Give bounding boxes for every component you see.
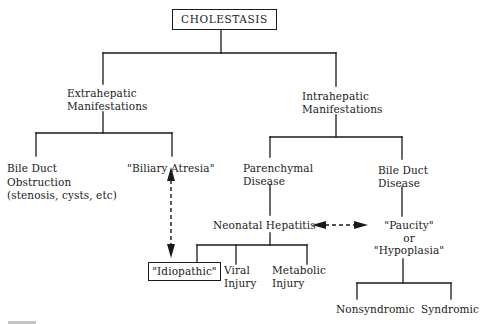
node-nonsyndromic: Nonsyndromic [336,303,415,316]
arrowhead-down-icon [167,244,175,258]
node-idiopathic: "Idiopathic" [148,262,221,281]
node-label-line: Metabolic [272,264,326,277]
arrowhead-right-icon [354,221,368,229]
node-label-line: Bile Duct [378,164,428,177]
node-cholestasis: CHOLESTASIS [172,9,277,30]
node-label-line: Disease [243,175,313,188]
node-label-line: Injury [272,277,326,290]
node-label-line: Obstruction [7,176,117,190]
node-label: "Biliary Atresia" [127,162,215,174]
node-viral-injury: Viral Injury [224,264,256,290]
node-label-line: Manifestations [67,100,148,113]
node-syndromic: Syndromic [421,303,479,316]
node-neonatal-hepatitis: Neonatal Hepatitis [213,219,316,232]
node-paucity-hypoplasia: "Paucity" or "Hypoplasia" [371,219,447,257]
node-label-line: or [371,232,447,245]
node-extrahepatic-manifestations: Extrahepatic Manifestations [67,87,148,113]
node-label-line: "Paucity" [371,219,447,232]
node-label-line: Injury [224,277,256,290]
node-label: Syndromic [421,303,479,315]
node-intrahepatic-manifestations: Intrahepatic Manifestations [302,90,383,116]
node-label-line: Manifestations [302,103,383,116]
node-label-line: Disease [378,177,428,190]
node-label: Neonatal Hepatitis [213,219,316,231]
node-label-line: (stenosis, cysts, etc) [7,189,117,203]
node-label-line: Parenchymal [243,162,313,175]
node-bile-duct-obstruction: Bile Duct Obstruction (stenosis, cysts, … [7,162,117,203]
cholestasis-diagram: CHOLESTASIS Extrahepatic Manifestations … [0,0,482,324]
node-label: "Idiopathic" [152,265,217,277]
node-label-line: Extrahepatic [67,87,148,100]
node-label: Nonsyndromic [336,303,415,315]
node-bile-duct-disease: Bile Duct Disease [378,164,428,190]
node-metabolic-injury: Metabolic Injury [272,264,326,290]
node-label-line: "Hypoplasia" [371,244,447,257]
node-parenchymal-disease: Parenchymal Disease [243,162,313,188]
node-label-line: Viral [224,264,256,277]
node-biliary-atresia: "Biliary Atresia" [127,162,215,175]
node-label-line: Bile Duct [7,162,117,176]
dashed-arrow-atresia-idiopathic [167,167,175,258]
node-label-line: Intrahepatic [302,90,383,103]
dashed-arrow-neonatal-paucity [312,221,368,229]
node-cholestasis-label: CHOLESTASIS [181,13,268,25]
